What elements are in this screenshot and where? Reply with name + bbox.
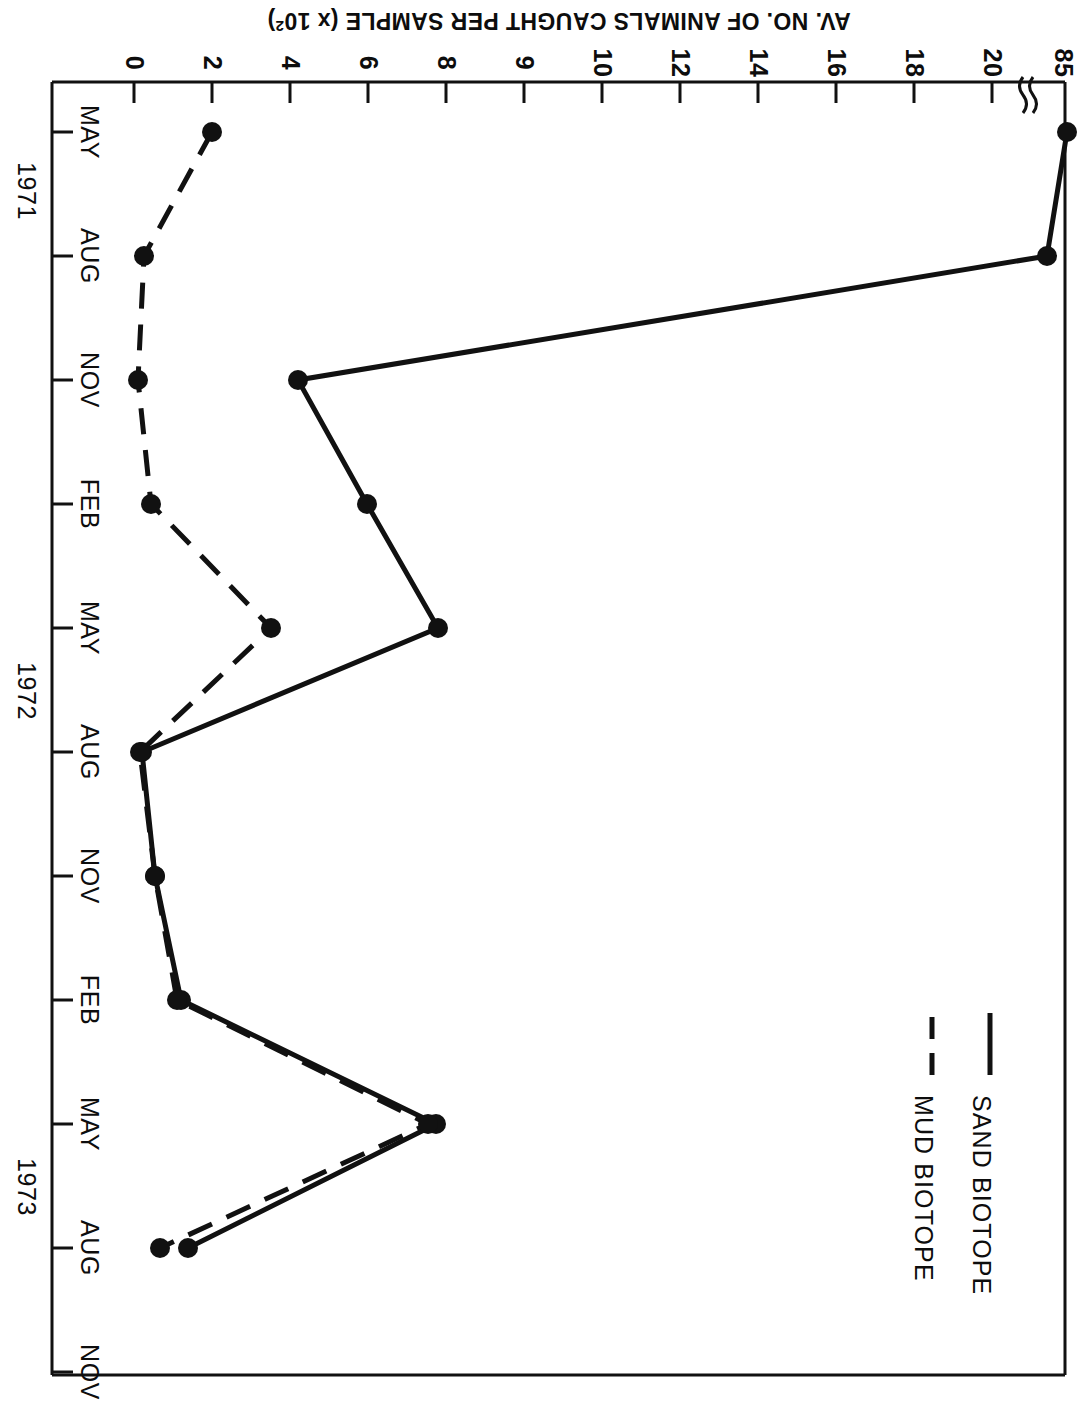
legend-label-sand: SAND BIOTOPE: [967, 1095, 996, 1295]
category-axis-ticks: [52, 132, 73, 1372]
value-axis-title: AV. NO. OF ANIMALS CAUGHT PER SAMPLE (x …: [267, 7, 851, 36]
ytick-label-8: 8: [432, 56, 461, 71]
xtick-label-aug-1971: AUG: [75, 228, 104, 284]
xtick-label-may-1972: MAY: [75, 601, 104, 655]
legend-label-mud: MUD BIOTOPE: [909, 1095, 938, 1282]
figure-rotation-wrapper: 0 2 4 6 8 9 10 12 14 16 18 20 85 MAY AUG…: [0, 0, 1089, 1413]
value-axis-title-exponent: 2: [275, 18, 284, 35]
legend-swatches: [932, 1013, 990, 1075]
year-label-1973: 1973: [12, 1158, 41, 1216]
year-label-1972: 1972: [12, 662, 41, 720]
ytick-label-85: 85: [1049, 48, 1078, 77]
ytick-label-9: 9: [510, 56, 539, 71]
ytick-label-10: 10: [588, 48, 617, 77]
value-axis-ticks: [134, 82, 992, 103]
xtick-label-feb-1972: FEB: [75, 479, 104, 529]
ytick-label-20: 20: [978, 48, 1007, 77]
xtick-label-may-1973: MAY: [75, 1097, 104, 1151]
xtick-label-feb-1973: FEB: [75, 975, 104, 1025]
ytick-label-14: 14: [744, 48, 773, 77]
ytick-label-0: 0: [120, 56, 149, 71]
xtick-label-nov-1971: NOV: [75, 352, 104, 408]
xtick-label-nov-1973: NOV: [75, 1344, 104, 1400]
xtick-label-nov-1972: NOV: [75, 848, 104, 904]
ytick-label-12: 12: [666, 48, 695, 77]
ytick-label-18: 18: [900, 48, 929, 77]
xtick-label-may-1971: MAY: [75, 105, 104, 159]
series-markers-mud: [128, 122, 438, 1258]
value-axis-title-prefix: AV. NO. OF ANIMALS CAUGHT PER SAMPLE (x …: [284, 8, 851, 34]
chart-figure: 0 2 4 6 8 9 10 12 14 16 18 20 85 MAY AUG…: [0, 0, 1089, 1413]
series-markers-sand: [132, 122, 1077, 1258]
series-line-sand: [142, 132, 1067, 1248]
ytick-label-2: 2: [198, 56, 227, 71]
xtick-label-aug-1972: AUG: [75, 724, 104, 780]
ytick-label-4: 4: [276, 56, 305, 71]
series-line-mud: [138, 132, 428, 1248]
ytick-label-16: 16: [822, 48, 851, 77]
xtick-label-aug-1973: AUG: [75, 1220, 104, 1276]
year-label-1971: 1971: [12, 162, 41, 220]
ytick-label-6: 6: [354, 56, 383, 71]
value-axis-title-suffix: ): [267, 8, 275, 34]
